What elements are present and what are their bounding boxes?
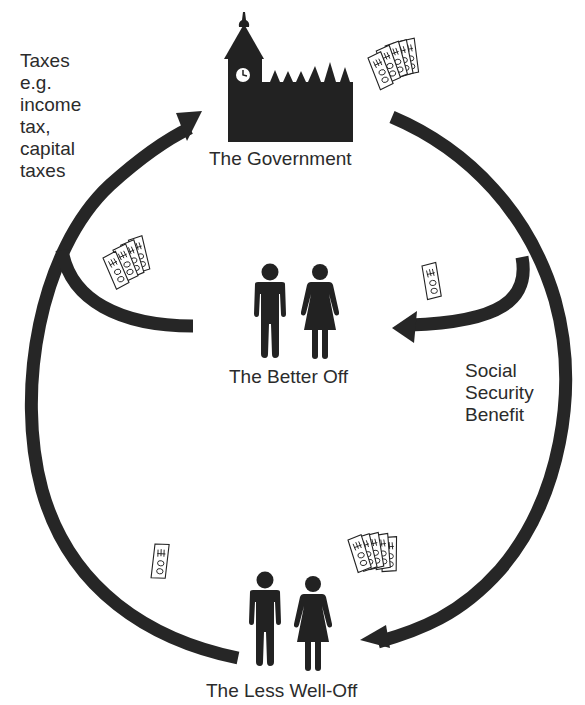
- taxes-line-3: income: [20, 94, 81, 116]
- bundle-of-banknotes-icon: [366, 34, 428, 90]
- taxes-line-1: Taxes: [20, 50, 81, 72]
- arrowhead-to-less-well-off: [360, 625, 390, 648]
- diagram-canvas: Taxes e.g. income tax, capital taxes The…: [0, 0, 585, 705]
- single-banknote-icon: [422, 262, 442, 299]
- man-woman-icon: [254, 264, 339, 360]
- bundle-of-banknotes-icon: [100, 233, 158, 290]
- parliament-building-icon: [224, 12, 353, 142]
- bundle-of-banknotes-icon: [348, 526, 407, 582]
- tax-arrow-less-well-off: [31, 128, 238, 658]
- taxes-label: Taxes e.g. income tax, capital taxes: [20, 50, 81, 182]
- government-label: The Government: [209, 148, 352, 170]
- better-off-label: The Better Off: [229, 366, 348, 388]
- single-banknote-icon: [149, 542, 171, 580]
- taxes-line-5: capital: [20, 138, 81, 160]
- social-security-line-1: Social: [465, 360, 534, 382]
- diagram-graphics: [0, 0, 585, 705]
- man-woman-icon: [249, 572, 332, 672]
- social-security-line-3: Benefit: [465, 404, 534, 426]
- arrowhead-to-better-off: [392, 311, 417, 343]
- social-security-line-2: Security: [465, 382, 534, 404]
- taxes-line-4: tax,: [20, 116, 81, 138]
- less-well-off-label: The Less Well-Off: [206, 680, 357, 702]
- social-security-label: Social Security Benefit: [465, 360, 534, 426]
- taxes-line-2: e.g.: [20, 72, 81, 94]
- taxes-line-6: taxes: [20, 160, 81, 182]
